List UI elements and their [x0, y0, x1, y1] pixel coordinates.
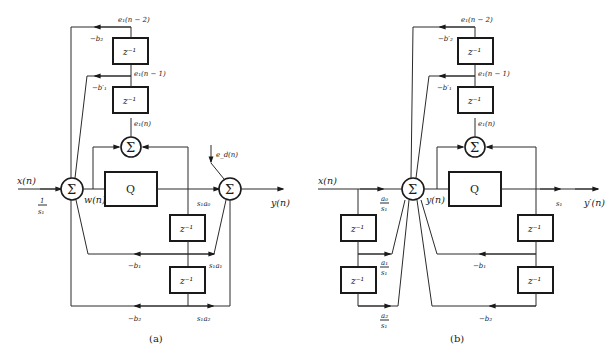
e1-n-label-b: e₁(n)	[478, 120, 495, 128]
delay-label: z⁻¹	[527, 224, 541, 234]
coef-s1: s₁	[556, 200, 563, 208]
diagram-b: x(n) a₀ s₁ Σ y(n) Q s₁ y′(n) Σ e₁(n) z⁻¹…	[318, 16, 605, 344]
delay-label: z⁻¹	[467, 47, 481, 57]
coef-b2-b: −b₂	[479, 315, 492, 323]
e1-n2-label-b: e₁(n − 2)	[461, 16, 493, 24]
quantizer-label-b: Q	[470, 183, 479, 196]
coef-s1a0: s₁a₀	[197, 200, 211, 208]
quantization-error-feedback-figure: x(n) 1 s₁ Σ w(n) Q s₁a₀ Σ y(n) e_d(n) Σ	[0, 0, 614, 359]
coef-a2-num: a₂	[381, 312, 388, 320]
coef-b2-top-a: −b₂	[90, 35, 103, 43]
delay-label: z⁻¹	[122, 47, 136, 57]
coef-b2-a: −b₂	[128, 315, 141, 323]
error-sum-symbol-b: Σ	[470, 140, 479, 155]
coef-b1-b: −b₁	[473, 262, 486, 270]
e1-n-label-a: e₁(n)	[134, 120, 151, 128]
delay-label: z⁻¹	[122, 96, 136, 106]
coef-a1-den: s₁	[381, 269, 388, 277]
input-gain-num-a: 1	[40, 197, 44, 205]
delay-label: z⁻¹	[179, 276, 193, 286]
e1-n1-label-b: e₁(n − 1)	[478, 70, 510, 78]
delay-label: z⁻¹	[527, 276, 541, 286]
delay-label: z⁻¹	[350, 224, 364, 234]
coef-b1p-top-a: −b′₁	[92, 84, 107, 92]
coef-b1-a: −b₁	[128, 262, 141, 270]
diagram-a: x(n) 1 s₁ Σ w(n) Q s₁a₀ Σ y(n) e_d(n) Σ	[17, 16, 290, 344]
sum-symbol-b: Σ	[408, 182, 417, 197]
e1-n1-label-a: e₁(n − 1)	[134, 70, 166, 78]
e1-n2-label-a: e₁(n − 2)	[118, 16, 150, 24]
caption-a: (a)	[149, 333, 163, 344]
node-y-label: y(n)	[425, 194, 445, 205]
node-w-label: w(n)	[84, 194, 106, 205]
input-label-a: x(n)	[17, 175, 36, 186]
coef-a2-den: s₁	[381, 322, 388, 330]
input-label-b: x(n)	[318, 175, 337, 186]
caption-b: (b)	[450, 333, 464, 344]
coef-s1a1: s₁a₁	[209, 262, 223, 270]
coef-a0-num: a₀	[381, 195, 388, 203]
delay-label: z⁻¹	[467, 96, 481, 106]
coef-b2p-top-b: −b′₂	[438, 35, 453, 43]
coef-a1-num: a₁	[381, 259, 388, 267]
delay-label: z⁻¹	[350, 276, 364, 286]
coef-a0-den: s₁	[381, 205, 388, 213]
output-sum-symbol-a: Σ	[225, 182, 234, 197]
delay-label: z⁻¹	[179, 224, 193, 234]
error-input-label: e_d(n)	[216, 151, 238, 159]
error-sum-symbol-a: Σ	[126, 140, 135, 155]
output-label-a: y(n)	[270, 197, 290, 208]
coef-s1a2: s₁a₂	[197, 315, 211, 323]
input-gain-den-a: s₁	[38, 208, 45, 216]
output-label-b: y′(n)	[583, 197, 605, 208]
quantizer-label-a: Q	[126, 183, 135, 196]
coef-b1p-top-b: −b′₁	[437, 84, 452, 92]
sum-symbol-a: Σ	[67, 182, 76, 197]
